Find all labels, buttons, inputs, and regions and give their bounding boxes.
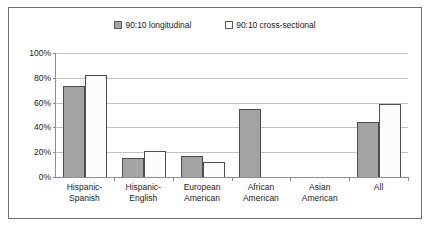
bar-group-bars <box>349 53 408 177</box>
bar-group-bars <box>115 53 174 177</box>
x-axis-label-line: Spanish <box>55 193 114 204</box>
x-tick-mark-3 <box>290 177 291 181</box>
bar-european-american-longitudinal[interactable] <box>181 156 203 177</box>
bar-african-american-longitudinal[interactable] <box>239 109 261 177</box>
bar-group-asian-american <box>291 53 350 177</box>
legend-swatch-longitudinal-icon <box>114 21 122 29</box>
x-axis-label-line: All <box>349 182 408 193</box>
x-axis-label-african-american: AfricanAmerican <box>231 182 290 203</box>
x-tick-mark-2 <box>232 177 233 181</box>
x-axis-label-asian-american: AsianAmerican <box>290 182 349 203</box>
chart-frame: 90:10 longitudinal 90:10 cross-sectional… <box>8 7 422 219</box>
bar-group-hispanic-spanish <box>56 53 115 177</box>
x-axis-label-line: Asian <box>290 182 349 193</box>
bar-hispanic-spanish-longitudinal[interactable] <box>63 86 85 177</box>
legend-label-longitudinal: 90:10 longitudinal <box>125 20 191 30</box>
x-axis-label-hispanic-english: Hispanic-English <box>114 182 173 203</box>
x-axis-label-line: American <box>231 193 290 204</box>
x-axis-label-line: English <box>114 193 173 204</box>
y-tick-label-100: 100% <box>29 48 51 58</box>
x-axis-label-european-american: EuropeanAmerican <box>173 182 232 203</box>
bar-group-bars <box>232 53 291 177</box>
y-tick-label-40: 40% <box>34 122 51 132</box>
bar-group-hispanic-english <box>115 53 174 177</box>
x-axis-label-all: All <box>349 182 408 203</box>
x-axis-label-line: African <box>231 182 290 193</box>
x-tick-mark-5 <box>408 177 409 181</box>
bar-group-bars <box>291 53 350 177</box>
legend-label-cross-sectional: 90:10 cross-sectional <box>236 20 315 30</box>
y-tick-label-0: 0% <box>39 172 51 182</box>
bar-group-bars <box>173 53 232 177</box>
bar-all-cross-sectional[interactable] <box>379 104 401 177</box>
x-axis-label-line: Hispanic- <box>55 182 114 193</box>
bar-group-european-american <box>173 53 232 177</box>
x-axis-label-line: European <box>173 182 232 193</box>
legend-swatch-cross-sectional-icon <box>225 21 233 29</box>
legend-entry-cross-sectional[interactable]: 90:10 cross-sectional <box>225 20 315 30</box>
y-tick-label-80: 80% <box>34 73 51 83</box>
x-axis-label-line: American <box>173 193 232 204</box>
bar-group-bars <box>56 53 115 177</box>
bar-group-african-american <box>232 53 291 177</box>
bar-hispanic-spanish-cross-sectional[interactable] <box>85 75 107 177</box>
bar-group-all <box>349 53 408 177</box>
x-tick-mark-1 <box>173 177 174 181</box>
x-axis-label-hispanic-spanish: Hispanic-Spanish <box>55 182 114 203</box>
chart-legend: 90:10 longitudinal 90:10 cross-sectional <box>9 20 421 30</box>
bar-hispanic-english-cross-sectional[interactable] <box>144 151 166 177</box>
x-axis-label-line: Hispanic- <box>114 182 173 193</box>
x-axis-labels: Hispanic-SpanishHispanic-EnglishEuropean… <box>55 182 408 203</box>
y-tick-mark-0 <box>53 177 56 178</box>
plot-area: 100%80%60%40%20%0% <box>55 53 408 178</box>
y-tick-label-20: 20% <box>34 147 51 157</box>
x-axis-label-line: American <box>290 193 349 204</box>
x-tick-mark-4 <box>349 177 350 181</box>
bar-hispanic-english-longitudinal[interactable] <box>122 158 144 177</box>
x-tick-mark-0 <box>114 177 115 181</box>
bar-european-american-cross-sectional[interactable] <box>203 162 225 177</box>
bar-all-longitudinal[interactable] <box>357 122 379 177</box>
y-tick-label-60: 60% <box>34 98 51 108</box>
bar-groups <box>56 53 408 177</box>
legend-entry-longitudinal[interactable]: 90:10 longitudinal <box>114 20 191 30</box>
